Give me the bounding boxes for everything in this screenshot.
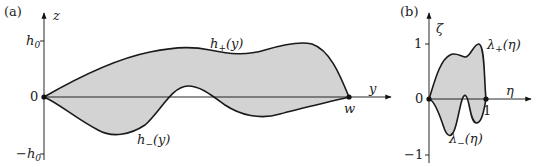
tick-label-zero-b: 0 bbox=[415, 91, 423, 106]
origin-dot-b bbox=[426, 96, 431, 101]
tick-label-h0: h0 bbox=[26, 33, 40, 50]
tick-label-minus-h0: −h0 bbox=[16, 146, 41, 163]
y-axis-label: y bbox=[368, 81, 377, 96]
origin-dot-a bbox=[41, 94, 46, 99]
eta-one-dot bbox=[483, 96, 488, 101]
panel-b-label: (b) bbox=[400, 4, 418, 19]
zeta-axis-label: ζ bbox=[436, 21, 444, 36]
tick-label-eta-one: 1 bbox=[483, 103, 491, 118]
h-minus-label: h−(y) bbox=[137, 132, 170, 149]
w-label: w bbox=[344, 101, 355, 116]
tick-label-one: 1 bbox=[414, 36, 422, 51]
eta-axis-label: η bbox=[506, 83, 514, 98]
region-fill-a bbox=[44, 43, 349, 135]
panel-a-label: (a) bbox=[4, 4, 22, 19]
tick-label-zero: 0 bbox=[30, 89, 38, 104]
panel-b: (b) ζ η 1 0 −1 1 λ+(η) λ−(η) bbox=[400, 4, 531, 163]
figure: (a) z y h0 0 −h0 w h+(y) h−(y) (b) bbox=[0, 0, 540, 167]
z-axis-label: z bbox=[52, 8, 60, 23]
h-plus-label: h+(y) bbox=[210, 36, 243, 53]
w-dot bbox=[346, 94, 351, 99]
lambda-plus-label: λ+(η) bbox=[486, 37, 521, 54]
tick-label-minus-one: −1 bbox=[404, 147, 423, 162]
panel-a: (a) z y h0 0 −h0 w h+(y) h−(y) bbox=[4, 4, 391, 163]
lambda-minus-label: λ−(η) bbox=[448, 131, 483, 148]
